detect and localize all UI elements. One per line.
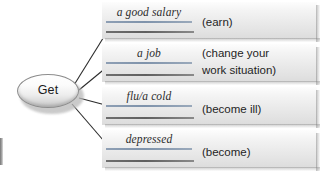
band-shadow-right <box>316 133 320 171</box>
answer-rule-top-4 <box>106 148 192 150</box>
central-node-label: Get <box>38 84 59 98</box>
central-node[interactable]: Get <box>17 74 81 111</box>
band-shadow-bottom <box>105 167 320 171</box>
answer-band-3[interactable]: flu/a cold (become ill) <box>102 87 317 125</box>
answer-text-2: a job <box>106 47 192 59</box>
gloss-text-2-line2: work situation) <box>202 63 276 78</box>
band-shadow-bottom <box>105 81 320 85</box>
band-shadow-right <box>316 5 320 42</box>
gloss-text-1: (earn) <box>202 15 233 30</box>
answer-text-1: a good salary <box>106 6 192 18</box>
answer-band-2[interactable]: a job (change your work situation) <box>102 44 317 82</box>
answer-text-4: depressed <box>106 133 192 145</box>
gloss-text-3: (become ill) <box>202 102 261 117</box>
answer-rule-bottom-3 <box>106 117 194 119</box>
band-shadow-bottom <box>105 38 320 42</box>
gloss-text-4: (become) <box>202 145 251 160</box>
answer-rule-bottom-2 <box>106 74 194 76</box>
answer-rule-bottom-4 <box>106 160 194 162</box>
answer-rule-top-2 <box>106 62 192 64</box>
diagram-canvas: Get a good salary (earn) a job (change y… <box>0 0 325 177</box>
band-shadow-right <box>316 47 320 85</box>
answer-rule-top-3 <box>106 105 192 107</box>
answer-band-1[interactable]: a good salary (earn) <box>102 2 317 39</box>
answer-rule-bottom-1 <box>106 31 194 33</box>
central-node-body: Get <box>17 74 79 108</box>
band-shadow-right <box>316 90 320 128</box>
gloss-text-2: (change your <box>202 46 269 61</box>
band-shadow-bottom <box>105 124 320 128</box>
answer-band-4[interactable]: depressed (become) <box>102 130 317 168</box>
answer-rule-top-1 <box>106 21 192 23</box>
answer-text-3: flu/a cold <box>106 90 192 102</box>
